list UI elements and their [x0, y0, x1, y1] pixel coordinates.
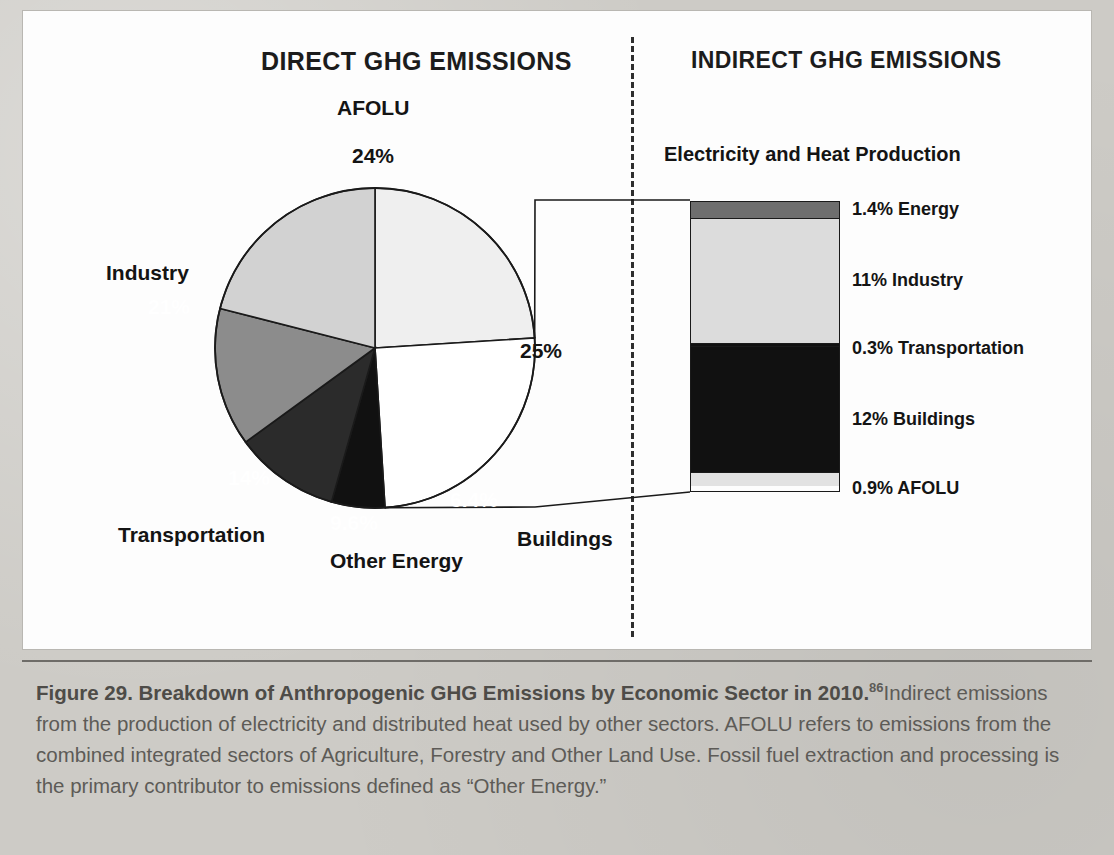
pie-slice-electricity-and-heat — [375, 338, 535, 508]
bar-segment-energy — [691, 202, 839, 218]
scanned-page: DIRECT GHG EMISSIONS INDIRECT GHG EMISSI… — [0, 0, 1114, 855]
pie-slices — [215, 188, 535, 508]
pie-slice-afolu — [375, 188, 535, 348]
pie-label-transportation: Transportation — [118, 523, 265, 547]
indirect-emissions-stacked-bar — [690, 201, 840, 492]
bar-segment-industry — [691, 218, 839, 343]
pie-label-afolu: AFOLU — [337, 96, 409, 120]
bar-label-afolu: 0.9% AFOLU — [852, 478, 959, 499]
figure-caption: Figure 29. Breakdown of Anthropogenic GH… — [36, 672, 1082, 801]
bar-label-transportation: 0.3% Transportation — [852, 338, 1024, 359]
pie-value-electricity-and-heat: 25% — [520, 339, 562, 363]
pie-label-other-energy: Other Energy — [330, 549, 463, 573]
stacked-bar-header: Electricity and Heat Production — [664, 143, 961, 166]
pie-value-other-energy: 9.6% — [330, 511, 378, 535]
bar-segment-afolu — [691, 472, 839, 486]
bar-label-buildings: 12% Buildings — [852, 409, 975, 430]
caption-footnote-marker: 86 — [869, 680, 883, 695]
bar-label-energy: 1.4% Energy — [852, 199, 959, 220]
caption-bold-title: Figure 29. Breakdown of Anthropogenic GH… — [36, 681, 869, 704]
pie-value-transportation: 14% — [228, 466, 270, 490]
bar-label-industry: 11% Industry — [852, 270, 963, 291]
pie-value-afolu: 24% — [352, 144, 394, 168]
pie-value-industry: 21% — [148, 295, 190, 319]
direct-emissions-pie-chart — [22, 10, 1092, 650]
pie-value-buildings: 6.4% — [450, 488, 498, 512]
bar-segment-buildings — [691, 346, 839, 472]
pie-label-industry: Industry — [106, 261, 189, 285]
pie-label-buildings: Buildings — [517, 527, 613, 551]
caption-divider — [22, 660, 1092, 662]
